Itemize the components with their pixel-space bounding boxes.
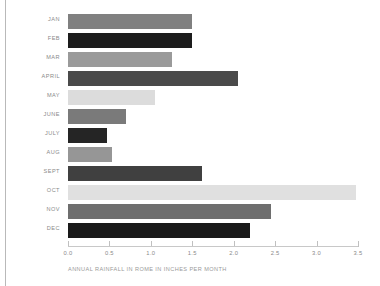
bar-mar: [68, 52, 172, 67]
x-axis-tick-label: 0.0: [64, 250, 73, 256]
bar-category-label: OCT: [0, 186, 60, 195]
chart-caption: ANNUAL RAINFALL IN ROME IN INCHES PER MO…: [68, 266, 227, 272]
bar-row: APRIL: [0, 69, 380, 88]
bar-row: JAN: [0, 12, 380, 31]
bar-category-label: SEPT: [0, 167, 60, 176]
x-axis-tick-label: 2.5: [271, 250, 280, 256]
x-axis-tick-label: 2.0: [229, 250, 238, 256]
bar-july: [68, 128, 107, 143]
bar-category-label: MAY: [0, 91, 60, 100]
x-axis-tick-label: 1.5: [188, 250, 197, 256]
bar-category-label: NOV: [0, 205, 60, 214]
bar-category-label: JAN: [0, 15, 60, 24]
bar-row: MAR: [0, 50, 380, 69]
bar-nov: [68, 204, 271, 219]
plot-area: JANFEBMARAPRILMAYJUNEJULYAUGSEPTOCTNOVDE…: [0, 0, 380, 286]
bar-row: OCT: [0, 183, 380, 202]
bar-row: DEC: [0, 221, 380, 240]
bar-april: [68, 71, 238, 86]
bar-row: NOV: [0, 202, 380, 221]
x-axis-line: [68, 246, 358, 247]
bar-category-label: JULY: [0, 129, 60, 138]
bar-row: FEB: [0, 31, 380, 50]
bar-category-label: APRIL: [0, 72, 60, 81]
bar-category-label: FEB: [0, 34, 60, 43]
x-axis-tick-label: 0.5: [105, 250, 114, 256]
bar-feb: [68, 33, 192, 48]
x-axis-tick-label: 3.5: [354, 250, 363, 256]
bar-row: MAY: [0, 88, 380, 107]
bar-row: SEPT: [0, 164, 380, 183]
bar-category-label: DEC: [0, 224, 60, 233]
bar-row: JUNE: [0, 107, 380, 126]
bar-sept: [68, 166, 202, 181]
bar-category-label: JUNE: [0, 110, 60, 119]
bar-dec: [68, 223, 250, 238]
bar-row: JULY: [0, 126, 380, 145]
bar-row: AUG: [0, 145, 380, 164]
x-axis-tick: [358, 241, 359, 247]
bar-category-label: MAR: [0, 53, 60, 62]
bar-june: [68, 109, 126, 124]
x-axis-tick-label: 1.0: [146, 250, 155, 256]
bar-jan: [68, 14, 192, 29]
x-axis-tick-label: 3.0: [312, 250, 321, 256]
chart-figure: JANFEBMARAPRILMAYJUNEJULYAUGSEPTOCTNOVDE…: [0, 0, 380, 286]
bar-oct: [68, 185, 356, 200]
bar-aug: [68, 147, 112, 162]
bar-may: [68, 90, 155, 105]
bar-category-label: AUG: [0, 148, 60, 157]
